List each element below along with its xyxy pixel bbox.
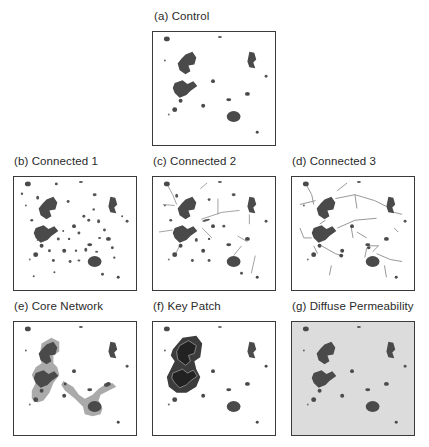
- panel-diffuse-permeability: [291, 321, 415, 436]
- connected-3-map: [292, 177, 414, 290]
- panel-title-g: (g) Diffuse Permeability: [292, 300, 414, 312]
- panel-control: [152, 31, 276, 146]
- panel-title-c: (c) Connected 2: [153, 155, 236, 167]
- connected-2-map: [153, 177, 275, 290]
- panel-connected-3: [291, 176, 415, 291]
- control-map: [153, 32, 275, 145]
- panel-title-d: (d) Connected 3: [292, 155, 376, 167]
- core-network-map: [14, 322, 136, 435]
- panel-title-b: (b) Connected 1: [14, 155, 98, 167]
- connected-1-map: [14, 177, 136, 290]
- panel-title-f: (f) Key Patch: [153, 300, 221, 312]
- panel-title-e: (e) Core Network: [14, 300, 103, 312]
- panel-connected-2: [152, 176, 276, 291]
- key-patch-map: [153, 322, 275, 435]
- panel-core-network: [13, 321, 137, 436]
- panel-connected-1: [13, 176, 137, 291]
- diffuse-permeability-map: [292, 322, 414, 435]
- panel-title-a: (a) Control: [154, 10, 209, 22]
- panel-key-patch: [152, 321, 276, 436]
